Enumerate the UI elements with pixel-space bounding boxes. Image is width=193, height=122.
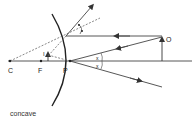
label-focus: F <box>38 67 42 74</box>
ray-to-pole-reflected-arrow <box>130 78 140 81</box>
normal-line-dashed <box>10 18 100 61</box>
label-object: O <box>166 36 172 43</box>
angle-dot-1 <box>78 24 80 26</box>
label-angle-incident: x <box>96 55 99 61</box>
mirror-arc <box>52 14 66 106</box>
angle-arc-incident <box>101 53 102 61</box>
virtual-ray-to-pole <box>48 55 70 61</box>
focus-point <box>40 60 42 62</box>
ray-to-pole-reflected <box>70 61 162 87</box>
label-pole: P <box>63 67 68 74</box>
angle-dot-2 <box>81 30 83 32</box>
virtual-ray-dashed <box>48 36 66 56</box>
pole-point <box>69 60 71 62</box>
ray-to-pole-incident <box>70 37 162 61</box>
center-point <box>9 60 11 62</box>
label-center: C <box>8 67 13 74</box>
angle-arc-reflected <box>101 61 102 69</box>
label-image: I <box>43 51 45 57</box>
ray-parallel-reflected <box>66 6 92 36</box>
ray-diagram: C F P O I x x <box>0 0 193 122</box>
ray-to-pole-incident-arrow <box>118 46 128 49</box>
label-angle-reflected: x <box>96 63 99 69</box>
diagram-caption: concave <box>10 110 36 117</box>
